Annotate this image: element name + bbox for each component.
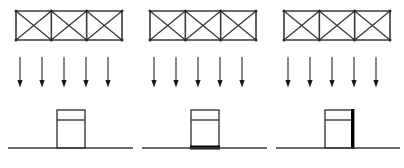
truss-load-diagram xyxy=(0,0,404,168)
plastic-hinge-right-edge-highlight xyxy=(351,109,354,149)
figure-root xyxy=(0,0,404,168)
